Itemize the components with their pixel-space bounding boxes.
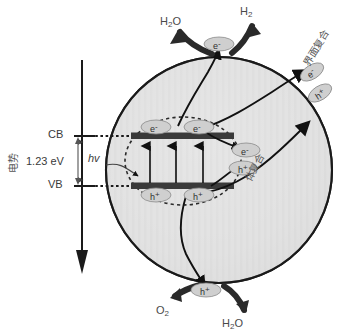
vb-hole-label-2: h+ xyxy=(193,190,203,202)
electron-charge: - xyxy=(246,145,249,154)
valence-band-bar xyxy=(131,183,234,190)
h-symbol: H xyxy=(240,5,248,17)
h-symbol: H xyxy=(222,317,230,329)
o-symbol: O xyxy=(172,15,181,27)
vb-hole-label-1: h+ xyxy=(150,190,160,202)
bulk-electron-label: e- xyxy=(241,145,249,157)
band-gap-arrow xyxy=(75,137,81,185)
band-gap-value: 1.23 eV xyxy=(26,156,64,167)
hole-charge: + xyxy=(198,190,203,199)
h-count: 2 xyxy=(248,10,252,19)
potential-axis-label: 电势 xyxy=(9,153,19,173)
electron-charge: - xyxy=(155,122,158,131)
semiconductor-particle xyxy=(106,57,332,283)
electron-charge: - xyxy=(198,122,201,131)
bottom-reactant-label: H2O xyxy=(222,318,243,331)
top-reactant-label: H2O xyxy=(160,16,181,29)
valence-band-label: VB xyxy=(48,179,63,190)
h-symbol: H xyxy=(160,15,168,27)
conduction-band-label: CB xyxy=(48,129,63,140)
hole-charge: + xyxy=(155,190,160,199)
cb-electron-label-1: e- xyxy=(150,122,158,134)
photon-energy-label: hv xyxy=(88,152,100,164)
bottom-hole-label: h+ xyxy=(200,285,210,297)
top-product-label: H2 xyxy=(240,6,252,19)
diagram-canvas: 电势 CB VB 1.23 eV hv e- e- h+ h+ e- h+ e-… xyxy=(0,0,353,333)
o-symbol: O xyxy=(234,317,243,329)
cb-electron-label-2: e- xyxy=(193,122,201,134)
electron-charge: - xyxy=(218,39,221,48)
hole-charge: + xyxy=(205,285,210,294)
bottom-product-label: O2 xyxy=(156,305,169,318)
top-electron-label: e- xyxy=(213,39,221,51)
conduction-band-bar xyxy=(131,133,234,140)
o-count: 2 xyxy=(165,309,169,318)
o-symbol: O xyxy=(156,304,165,316)
